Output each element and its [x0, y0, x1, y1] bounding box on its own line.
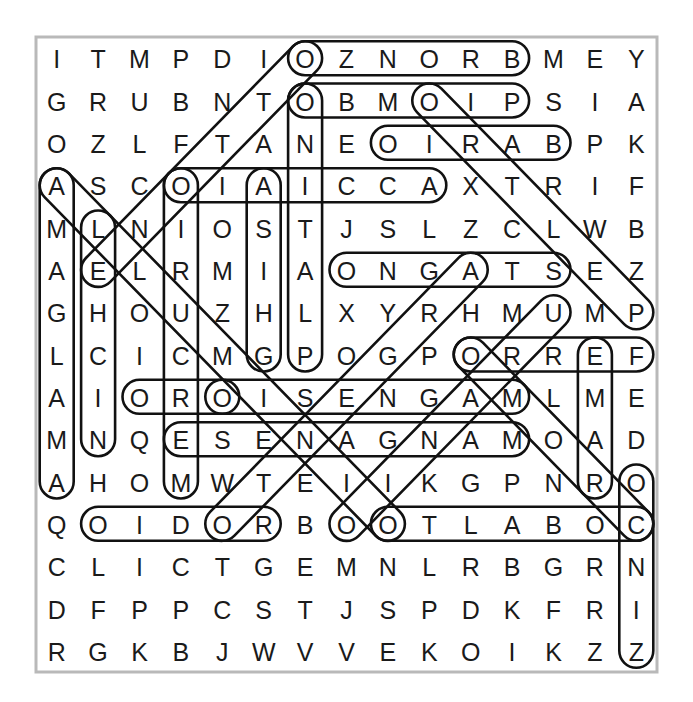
grid-cell[interactable]: O — [295, 45, 314, 73]
grid-cell[interactable]: M — [46, 426, 67, 454]
grid-cell[interactable]: T — [215, 130, 230, 158]
grid-cell[interactable]: T — [422, 511, 437, 539]
grid-cell[interactable]: M — [212, 257, 233, 285]
grid-cell[interactable]: C — [503, 215, 521, 243]
grid-cell[interactable]: L — [422, 215, 436, 243]
grid-cell[interactable]: O — [130, 469, 149, 497]
grid-cell[interactable]: V — [297, 638, 314, 666]
grid-cell[interactable]: B — [173, 88, 190, 116]
grid-cell[interactable]: F — [629, 342, 644, 370]
grid-cell[interactable]: T — [256, 469, 271, 497]
grid-cell[interactable]: O — [337, 511, 356, 539]
grid-cell[interactable]: E — [173, 426, 190, 454]
grid-cell[interactable]: G — [254, 553, 273, 581]
grid-cell[interactable]: O — [544, 426, 563, 454]
grid-cell[interactable]: N — [627, 553, 645, 581]
grid-cell[interactable]: B — [545, 130, 562, 158]
grid-cell[interactable]: J — [340, 215, 353, 243]
grid-cell[interactable]: I — [384, 469, 391, 497]
grid-cell[interactable]: V — [338, 638, 355, 666]
grid-cell[interactable]: R — [420, 299, 438, 327]
grid-cell[interactable]: P — [297, 342, 314, 370]
grid-cell[interactable]: A — [297, 257, 314, 285]
grid-cell[interactable]: I — [219, 172, 226, 200]
grid-cell[interactable]: D — [213, 45, 231, 73]
grid-cell[interactable]: N — [379, 257, 397, 285]
grid-cell[interactable]: N — [379, 384, 397, 412]
letter-grid[interactable]: ITMPDIOZNORBMEYGRUBNTOBMOIPSIAOZLFTANEOI… — [46, 45, 646, 666]
grid-cell[interactable]: C — [172, 553, 190, 581]
grid-cell[interactable]: R — [586, 596, 604, 624]
grid-cell[interactable]: M — [336, 553, 357, 581]
grid-cell[interactable]: M — [543, 45, 564, 73]
grid-cell[interactable]: R — [172, 384, 190, 412]
grid-cell[interactable]: H — [462, 299, 480, 327]
grid-cell[interactable]: R — [462, 45, 480, 73]
grid-cell[interactable]: O — [295, 88, 314, 116]
grid-cell[interactable]: D — [48, 596, 66, 624]
grid-cell[interactable]: E — [628, 384, 645, 412]
grid-cell[interactable]: I — [509, 638, 516, 666]
grid-cell[interactable]: P — [131, 596, 148, 624]
grid-cell[interactable]: R — [89, 88, 107, 116]
grid-cell[interactable]: Z — [90, 130, 105, 158]
grid-cell[interactable]: B — [338, 88, 355, 116]
grid-cell[interactable]: A — [255, 172, 272, 200]
grid-cell[interactable]: S — [545, 88, 562, 116]
grid-cell[interactable]: I — [591, 172, 598, 200]
grid-cell[interactable]: N — [544, 469, 562, 497]
grid-cell[interactable]: J — [340, 596, 353, 624]
grid-cell[interactable]: P — [173, 596, 190, 624]
grid-cell[interactable]: A — [421, 172, 438, 200]
grid-cell[interactable]: M — [170, 469, 191, 497]
grid-cell[interactable]: Z — [587, 638, 602, 666]
grid-cell[interactable]: L — [91, 553, 105, 581]
grid-cell[interactable]: Q — [130, 426, 149, 454]
grid-cell[interactable]: E — [297, 553, 314, 581]
grid-cell[interactable]: X — [462, 172, 479, 200]
grid-cell[interactable]: T — [90, 45, 105, 73]
grid-cell[interactable]: R — [255, 511, 273, 539]
grid-cell[interactable]: O — [130, 299, 149, 327]
grid-cell[interactable]: O — [130, 384, 149, 412]
grid-cell[interactable]: L — [133, 130, 147, 158]
grid-cell[interactable]: B — [173, 638, 190, 666]
grid-cell[interactable]: B — [628, 215, 645, 243]
grid-cell[interactable]: L — [133, 257, 147, 285]
grid-cell[interactable]: I — [591, 88, 598, 116]
grid-cell[interactable]: I — [53, 45, 60, 73]
grid-cell[interactable]: E — [587, 342, 604, 370]
grid-cell[interactable]: K — [131, 638, 148, 666]
grid-cell[interactable]: O — [171, 172, 190, 200]
grid-cell[interactable]: I — [343, 469, 350, 497]
grid-cell[interactable]: L — [547, 384, 561, 412]
grid-cell[interactable]: T — [256, 88, 271, 116]
grid-cell[interactable]: Y — [628, 45, 645, 73]
grid-cell[interactable]: U — [544, 299, 562, 327]
grid-cell[interactable]: C — [627, 511, 645, 539]
grid-cell[interactable]: P — [173, 45, 190, 73]
grid-cell[interactable]: M — [212, 342, 233, 370]
grid-cell[interactable]: K — [504, 596, 521, 624]
grid-cell[interactable]: K — [628, 130, 645, 158]
grid-cell[interactable]: A — [462, 426, 479, 454]
grid-cell[interactable]: R — [544, 342, 562, 370]
grid-cell[interactable]: U — [130, 88, 148, 116]
grid-cell[interactable]: E — [587, 45, 604, 73]
grid-cell[interactable]: G — [88, 638, 107, 666]
grid-cell[interactable]: R — [462, 553, 480, 581]
grid-cell[interactable]: N — [296, 426, 314, 454]
grid-cell[interactable]: D — [627, 426, 645, 454]
grid-cell[interactable]: T — [504, 257, 519, 285]
grid-cell[interactable]: O — [585, 511, 604, 539]
grid-cell[interactable]: X — [338, 299, 355, 327]
grid-cell[interactable]: A — [48, 257, 65, 285]
grid-cell[interactable]: O — [213, 384, 232, 412]
grid-cell[interactable]: A — [48, 469, 65, 497]
grid-cell[interactable]: C — [48, 553, 66, 581]
grid-cell[interactable]: I — [260, 384, 267, 412]
grid-cell[interactable]: K — [421, 469, 438, 497]
grid-cell[interactable]: O — [378, 130, 397, 158]
grid-cell[interactable]: I — [633, 596, 640, 624]
grid-cell[interactable]: P — [421, 342, 438, 370]
